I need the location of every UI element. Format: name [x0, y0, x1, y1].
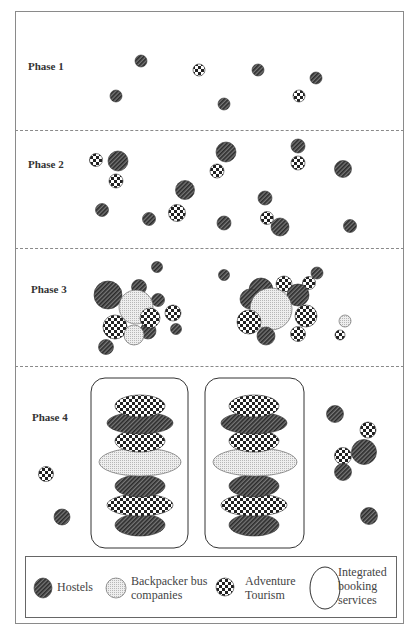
booking-stack-2: [213, 395, 297, 536]
legend-adventure-label-1: Adventure: [245, 575, 296, 588]
legend-bus-label-1: Backpacker bus: [131, 575, 207, 588]
legend-adventure-label-2: Tourism: [245, 589, 285, 602]
legend-booking-label-3: services: [338, 594, 377, 607]
diagram-graphics: [0, 0, 417, 633]
phase-2-elements: [90, 139, 357, 236]
legend-bus-label-2: companies: [131, 589, 182, 602]
diagram-stage: Phase 1 Phase 2 Phase 3 Phase 4: [0, 0, 417, 633]
legend-hostels-label: Hostels: [57, 581, 93, 594]
phase-3-cluster-left: [94, 262, 182, 355]
phase-3-cluster-right: [219, 267, 352, 345]
phase-1-elements: [110, 55, 322, 110]
booking-stack-1: [99, 395, 181, 536]
phase-4-elements: [39, 378, 378, 548]
legend-booking-label-1: Integrated: [338, 566, 387, 579]
legend-booking-label-2: booking: [338, 580, 377, 593]
